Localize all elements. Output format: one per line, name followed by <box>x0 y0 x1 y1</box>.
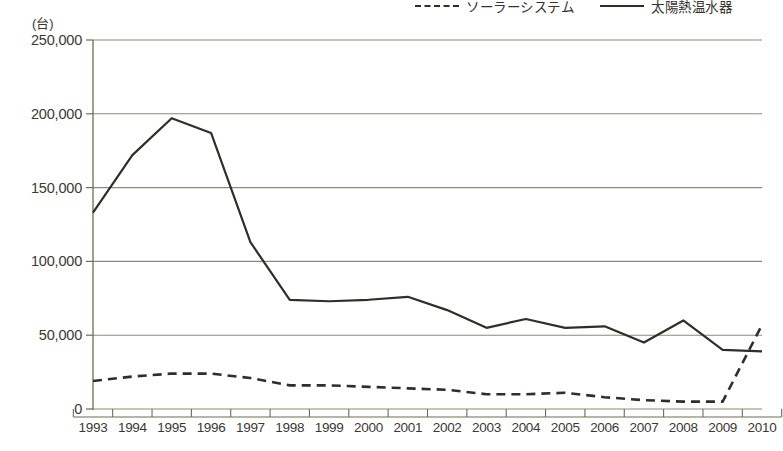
x-axis-label: 2005 <box>551 420 580 435</box>
series-line-solar-water-heater <box>93 118 762 351</box>
y-axis-label: 200,000 <box>0 106 82 122</box>
x-axis-label: 1996 <box>197 420 226 435</box>
x-axis-label: 1999 <box>315 420 344 435</box>
x-axis-label: 1995 <box>157 420 186 435</box>
y-axis-label: 250,000 <box>0 32 82 48</box>
x-axis-label: 1993 <box>79 420 108 435</box>
y-axis-label: 100,000 <box>0 253 82 269</box>
x-axis-label: 2008 <box>669 420 698 435</box>
y-axis-label: 50,000 <box>0 327 82 343</box>
x-axis-label: 2009 <box>708 420 737 435</box>
y-axis-label: 150,000 <box>0 180 82 196</box>
x-axis-label: 2006 <box>590 420 619 435</box>
x-axis-label: 2004 <box>511 420 540 435</box>
x-axis-label: 2000 <box>354 420 383 435</box>
x-axis-label: 1997 <box>236 420 265 435</box>
series-line-solar-system <box>93 325 762 402</box>
x-axis-label: 2002 <box>433 420 462 435</box>
y-axis-label: 0 <box>0 401 82 417</box>
chart-plot-area <box>0 0 783 451</box>
x-axis-label: 1998 <box>275 420 304 435</box>
x-axis-label: 2007 <box>630 420 659 435</box>
x-axis-label: 2010 <box>748 420 777 435</box>
x-axis-label: 2003 <box>472 420 501 435</box>
x-axis-label: 1994 <box>118 420 147 435</box>
chart-container: ソーラーシステム 太陽熱温水器 (台) 050,000100,000150,00… <box>0 0 783 451</box>
x-axis-label: 2001 <box>393 420 422 435</box>
